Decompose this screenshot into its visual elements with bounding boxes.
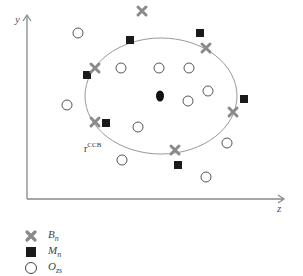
square-icon: [24, 245, 38, 259]
cross-icon: [24, 229, 38, 243]
series-bn: [91, 7, 237, 154]
legend-label-bn: Bn: [48, 228, 59, 243]
ozs-point: [203, 86, 213, 96]
x-axis-label: z: [276, 202, 282, 214]
legend-item-mn: Mn: [24, 244, 62, 260]
legend: Bn Mn Ozs: [24, 228, 62, 276]
mn-point: [102, 119, 110, 127]
bn-point: [91, 64, 99, 72]
ozs-point: [201, 172, 211, 182]
ozs-point: [222, 138, 232, 148]
legend-label-mn: Mn: [48, 244, 61, 259]
legend-label-ozs: Ozs: [48, 260, 62, 275]
mn-point: [174, 161, 182, 169]
legend-item-bn: Bn: [24, 228, 62, 244]
ozs-point: [117, 155, 127, 165]
ozs-point: [116, 63, 126, 73]
mn-point: [126, 36, 134, 44]
circle-icon: [24, 261, 38, 275]
ozs-point: [184, 63, 194, 73]
bn-point: [138, 7, 146, 15]
ccb-label-sup: CCB: [87, 141, 101, 149]
series-mn: [83, 29, 248, 169]
ozs-point: [183, 96, 193, 106]
ozs-point: [154, 63, 164, 73]
ozs-point: [73, 28, 83, 38]
y-axis-label: y: [14, 13, 20, 25]
legend-item-ozs: Ozs: [24, 260, 62, 276]
ozs-point: [62, 100, 72, 110]
mn-point: [240, 95, 248, 103]
ccb-radius-label: rCCB: [84, 141, 102, 154]
mn-point: [196, 29, 204, 37]
ozs-point: [133, 122, 143, 132]
series-ozs: [62, 28, 232, 182]
axes: y z: [14, 13, 284, 214]
center-point: [156, 91, 164, 102]
